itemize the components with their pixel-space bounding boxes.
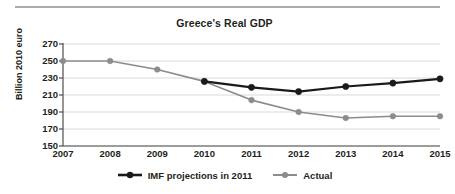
data-point: [296, 89, 302, 95]
data-point: [248, 84, 254, 90]
data-point: [390, 80, 396, 86]
legend-item[interactable]: IMF projections in 2011: [117, 170, 253, 181]
data-point: [437, 113, 443, 119]
data-point: [60, 58, 66, 64]
data-point: [437, 76, 443, 82]
chart-legend: IMF projections in 2011Actual: [0, 165, 449, 185]
data-point: [390, 113, 396, 119]
data-point: [249, 97, 255, 103]
data-point: [296, 109, 302, 115]
legend-marker-icon: [117, 170, 143, 180]
data-point: [201, 78, 207, 84]
data-point: [107, 58, 113, 64]
data-point: [154, 67, 160, 73]
data-point: [343, 83, 349, 89]
series-line-imf-projections: [204, 79, 440, 92]
legend-marker-icon: [272, 170, 298, 180]
data-point: [343, 115, 349, 121]
legend-label: Actual: [303, 170, 332, 181]
legend-item[interactable]: Actual: [272, 170, 332, 181]
legend-label: IMF projections in 2011: [148, 170, 253, 181]
